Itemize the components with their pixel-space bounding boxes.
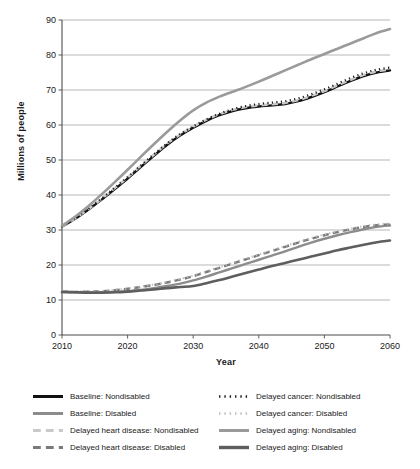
legend-item[interactable]: Delayed heart disease: Nondisabled	[33, 422, 219, 439]
chart-legend: Baseline: NondisabledDelayed cancer: Non…	[33, 388, 408, 456]
legend-line-swatch	[219, 442, 249, 453]
series-line-4	[62, 68, 390, 227]
legend-label: Baseline: Nondisabled	[70, 391, 150, 402]
legend-label: Delayed cancer: Nondisabled	[256, 391, 361, 402]
x-tick-label: 2040	[249, 341, 269, 351]
y-tick-label: 60	[46, 120, 56, 130]
x-tick-label: 2060	[380, 341, 400, 351]
legend-item[interactable]: Delayed aging: Disabled	[219, 439, 408, 456]
series-line-1	[62, 225, 390, 292]
legend-line-swatch	[219, 425, 249, 436]
x-tick-label: 2020	[118, 341, 138, 351]
legend-label: Delayed cancer: Disabled	[256, 408, 347, 419]
legend-item[interactable]: Delayed aging: Nondisabled	[219, 422, 408, 439]
chart-canvas: 0102030405060708090 20102020203020402050…	[0, 0, 420, 390]
y-tick-label: 90	[46, 15, 56, 25]
y-tick-label: 0	[51, 330, 56, 340]
legend-item[interactable]: Baseline: Nondisabled	[33, 388, 219, 405]
legend-line-swatch	[219, 408, 249, 419]
y-tick-labels: 0102030405060708090	[46, 15, 56, 340]
gridlines	[62, 20, 390, 300]
y-tick-label: 40	[46, 190, 56, 200]
y-tick-label: 30	[46, 225, 56, 235]
legend-label: Delayed heart disease: Disabled	[70, 442, 185, 453]
legend-label: Delayed aging: Nondisabled	[256, 425, 356, 436]
data-series	[62, 29, 390, 293]
axis-lines	[62, 20, 390, 335]
x-axis-title: Year	[62, 357, 390, 367]
y-axis-title: Millions of people	[16, 76, 26, 206]
y-tick-label: 20	[46, 260, 56, 270]
x-tick-label: 2030	[183, 341, 203, 351]
legend-line-swatch	[33, 442, 63, 453]
y-tick-label: 10	[46, 295, 56, 305]
legend-item[interactable]: Delayed heart disease: Disabled	[33, 439, 219, 456]
x-tick-label: 2010	[52, 341, 72, 351]
legend-label: Delayed aging: Disabled	[256, 442, 343, 453]
legend-line-swatch	[33, 391, 63, 402]
x-tick-labels: 201020202030204020502060	[52, 341, 400, 351]
legend-line-swatch	[219, 391, 249, 402]
legend-item[interactable]: Delayed cancer: Nondisabled	[219, 388, 408, 405]
legend-label: Delayed heart disease: Nondisabled	[70, 425, 199, 436]
legend-item[interactable]: Baseline: Disabled	[33, 405, 219, 422]
legend-line-swatch	[33, 408, 63, 419]
legend-item[interactable]: Delayed cancer: Disabled	[219, 405, 408, 422]
legend-line-swatch	[33, 425, 63, 436]
y-tick-label: 50	[46, 155, 56, 165]
series-line-6	[62, 29, 390, 226]
legend-label: Baseline: Disabled	[70, 408, 136, 419]
y-tick-label: 70	[46, 85, 56, 95]
y-tick-label: 80	[46, 50, 56, 60]
x-tick-label: 2050	[314, 341, 334, 351]
chart-figure: 0102030405060708090 20102020203020402050…	[0, 0, 420, 469]
